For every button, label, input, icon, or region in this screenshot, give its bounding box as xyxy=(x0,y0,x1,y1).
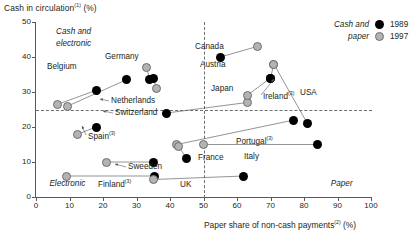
country-label-switzerland: Switzerland xyxy=(115,108,157,117)
label-leader-lines xyxy=(0,0,409,232)
leader-arrow-switzerland xyxy=(103,110,106,113)
country-label-portugal: Portugal(3) xyxy=(236,135,273,146)
country-label-sweeden: Sweeden xyxy=(128,162,162,171)
leader-arrow-netherlands xyxy=(100,98,103,101)
country-label-text: Finland xyxy=(98,180,125,189)
country-label-france: France xyxy=(198,153,223,162)
country-label-canada: Canada xyxy=(195,42,224,51)
country-label-ireland: Ireland(3) xyxy=(263,90,294,101)
country-label-text: Italy xyxy=(244,152,259,161)
country-label-uk: UK xyxy=(180,180,191,189)
country-label-austria: Austria xyxy=(200,60,225,69)
country-label-text: Japan xyxy=(211,84,233,93)
country-label-footnote: (3) xyxy=(288,90,294,96)
country-label-text: Spain xyxy=(88,132,109,141)
country-label-usa: USA xyxy=(300,88,317,97)
country-label-netherlands: Netherlands xyxy=(111,96,155,105)
country-label-text: Canada xyxy=(195,42,224,51)
country-label-text: France xyxy=(198,153,223,162)
country-label-italy: Italy xyxy=(244,152,259,161)
country-label-text: Austria xyxy=(200,60,225,69)
country-label-text: Netherlands xyxy=(111,96,155,105)
country-label-text: Belgium xyxy=(47,62,77,71)
country-label-japan: Japan xyxy=(211,84,233,93)
country-label-belgium: Belgium xyxy=(47,62,77,71)
country-label-text: Switzerland xyxy=(115,108,157,117)
country-label-footnote: (3) xyxy=(109,130,115,136)
country-label-spain: Spain(3) xyxy=(88,130,115,141)
country-label-footnote: (3) xyxy=(267,135,273,141)
country-label-text: Sweeden xyxy=(128,162,162,171)
country-label-text: Ireland xyxy=(263,92,288,101)
country-label-text: USA xyxy=(300,88,317,97)
chart-root: Cash in circulation(1) (%) Paper share o… xyxy=(0,0,409,232)
country-label-text: UK xyxy=(180,180,191,189)
country-label-footnote: (3) xyxy=(125,178,131,184)
country-label-text: Germany xyxy=(105,52,139,61)
country-label-finland: Finland(3) xyxy=(98,178,131,189)
country-label-text: Portugal xyxy=(236,137,267,146)
country-label-germany: Germany xyxy=(105,52,139,61)
